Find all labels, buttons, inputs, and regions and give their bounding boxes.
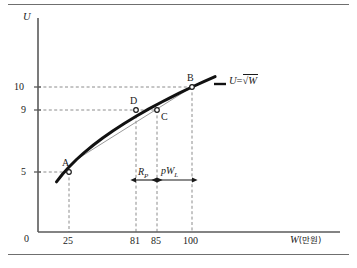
point-marker-b xyxy=(190,85,195,90)
point-label-a: A xyxy=(62,158,69,168)
x-axis-title-symbol: W xyxy=(290,234,299,245)
point-marker-c xyxy=(155,108,160,113)
y-axis-title: U xyxy=(23,12,31,23)
annotation-subscript-l: L xyxy=(174,171,178,179)
x-axis-title: W(만원) xyxy=(290,235,321,246)
annotation-label-expected-loss: pWL xyxy=(161,166,178,179)
x-tick-label-81: 81 xyxy=(130,236,140,246)
y-tick-label-9: 9 xyxy=(21,105,26,115)
annotation-subscript-p: P xyxy=(144,172,148,180)
y-tick-label-10: 10 xyxy=(14,82,24,92)
point-marker-d xyxy=(134,108,139,113)
plot-area xyxy=(0,0,357,268)
axis-lines xyxy=(38,18,340,232)
annotation-label-risk-premium: RP xyxy=(138,167,148,180)
equation-rhs: W xyxy=(248,75,257,86)
x-tick-label-100: 100 xyxy=(183,236,198,246)
point-label-b: B xyxy=(187,73,194,83)
point-label-c: C xyxy=(161,112,168,122)
point-marker-a xyxy=(67,170,72,175)
x-tick-label-85: 85 xyxy=(151,236,161,246)
equation-label: U=√W xyxy=(229,76,258,87)
equation-lhs: U xyxy=(229,75,237,86)
utility-curve-figure: U 10 9 5 0 25 81 85 100 W(만원) A B C D U=… xyxy=(0,0,357,268)
y-tick-label-5: 5 xyxy=(21,167,26,177)
x-tick-label-25: 25 xyxy=(63,236,73,246)
origin-label: 0 xyxy=(24,234,29,244)
point-label-d: D xyxy=(130,96,137,106)
x-axis-title-unit: (만원) xyxy=(299,235,322,245)
